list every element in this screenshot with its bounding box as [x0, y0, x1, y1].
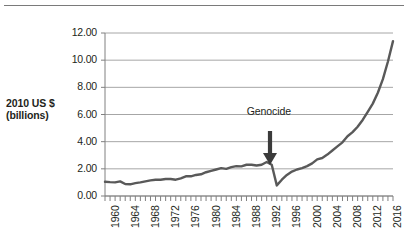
x-tick-label: 2004 — [332, 205, 343, 228]
x-tick-label: 1996 — [291, 205, 302, 228]
x-tick-marks — [105, 196, 393, 201]
y-tick-label: 12.00 — [49, 27, 97, 38]
y-tick-label: 8.00 — [49, 81, 97, 92]
x-tick-label: 1976 — [190, 205, 201, 228]
x-tick-label: 1968 — [150, 205, 161, 228]
x-tick-label: 2000 — [312, 205, 323, 228]
y-tick-label: 4.00 — [49, 136, 97, 147]
y-tick-label: 2.00 — [49, 163, 97, 174]
x-tick-label: 1988 — [251, 205, 262, 228]
y-tick-label: 0.00 — [49, 190, 97, 201]
x-tick-label: 2012 — [372, 205, 383, 228]
genocide-down-arrow-icon — [263, 131, 277, 165]
x-tick-label: 2008 — [352, 205, 363, 228]
y-tick-label: 10.00 — [49, 54, 97, 65]
genocide-annotation-label: Genocide — [247, 105, 291, 117]
y-tick-label: 6.00 — [49, 109, 97, 120]
x-tick-label: 1972 — [170, 205, 181, 228]
x-tick-label: 1992 — [271, 205, 282, 228]
x-tick-label: 2016 — [392, 205, 403, 228]
y-tick-marks — [101, 33, 105, 196]
x-tick-label: 1984 — [231, 205, 242, 228]
x-tick-label: 1964 — [130, 205, 141, 228]
x-tick-label: 1980 — [211, 205, 222, 228]
x-tick-label: 1960 — [110, 205, 121, 228]
chart-figure: 2010 US $ (billions) 0.002.004.006.008.0… — [0, 0, 408, 234]
